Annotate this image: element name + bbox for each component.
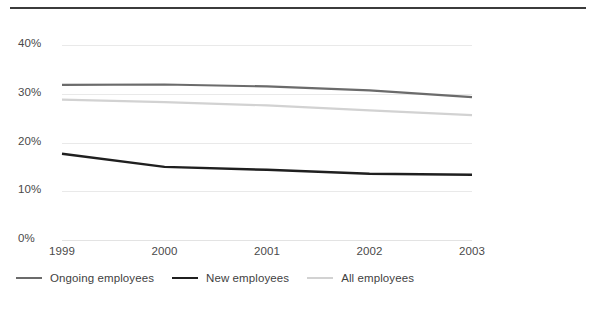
line-chart-figure: 0%10%20%30%40% 19992000200120022003 Ongo… — [0, 0, 599, 312]
series-line — [62, 84, 472, 97]
y-tick-label: 10% — [18, 183, 62, 195]
chart-legend: Ongoing employeesNew employeesAll employ… — [16, 272, 414, 284]
y-tick-label: 30% — [18, 86, 62, 98]
y-axis-tick-labels: 0%10%20%30%40% — [18, 45, 62, 240]
x-tick-label: 2001 — [254, 245, 280, 257]
plot-area — [62, 45, 472, 240]
legend-line-icon — [307, 277, 333, 279]
legend-label: All employees — [341, 272, 414, 284]
legend-item[interactable]: All employees — [307, 272, 414, 284]
series-line — [62, 154, 472, 175]
y-tick-label: 20% — [18, 135, 62, 147]
legend-label: New employees — [206, 272, 289, 284]
series-lines — [62, 45, 472, 240]
x-tick-label: 1999 — [49, 245, 75, 257]
x-axis-tick-labels: 19992000200120022003 — [62, 245, 472, 263]
legend-item[interactable]: Ongoing employees — [16, 272, 154, 284]
gridline — [62, 240, 472, 241]
y-tick-label: 40% — [18, 37, 62, 49]
x-tick-label: 2002 — [357, 245, 383, 257]
legend-line-icon — [16, 277, 42, 279]
x-tick-label: 2000 — [152, 245, 178, 257]
y-tick-label: 0% — [18, 232, 62, 244]
legend-label: Ongoing employees — [50, 272, 154, 284]
x-tick-label: 2003 — [459, 245, 485, 257]
legend-item[interactable]: New employees — [172, 272, 289, 284]
series-line — [62, 100, 472, 116]
legend-line-icon — [172, 277, 198, 279]
